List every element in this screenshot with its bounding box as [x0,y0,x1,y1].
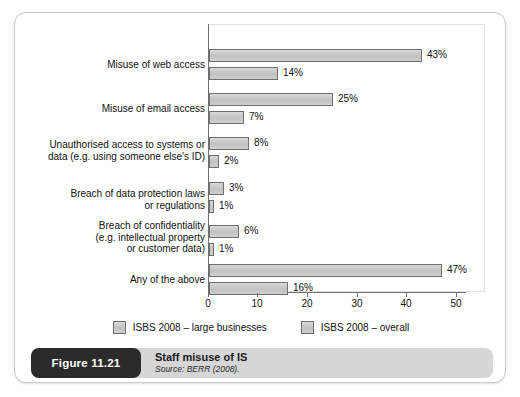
category-label-0: Misuse of web access [107,59,205,71]
legend-entry-large-businesses: ISBS 2008 – large businesses [113,321,267,334]
bar-value-overall-2: 2% [224,154,238,168]
bar-large-businesses-2 [209,137,249,150]
bar-overall-0 [209,67,278,80]
tick-mark-20 [307,293,308,297]
category-label-5: Any of the above [130,274,205,286]
bar-value-overall-5: 16% [293,281,313,295]
bar-overall-1 [209,111,244,124]
figure-number-pill: Figure 11.21 [31,348,141,378]
bar-large-businesses-1 [209,93,333,106]
bar-overall-5 [209,282,288,295]
category-label-4: Breach of confidentiality (e.g. intellec… [95,220,205,255]
bar-value-large-businesses-0: 43% [427,48,447,62]
bar-value-large-businesses-1: 25% [338,92,358,106]
bar-value-overall-4: 1% [219,242,233,256]
bar-value-overall-1: 7% [249,110,263,124]
tick-mark-0 [208,293,209,297]
bar-value-large-businesses-2: 8% [254,136,268,150]
bar-overall-3 [209,200,214,213]
figure-caption: Figure 11.21 Staff misuse of IS Source: … [31,348,493,378]
tick-mark-30 [357,293,358,297]
category-label-3: Breach of data protection laws or regula… [70,188,205,211]
category-label-1: Misuse of email access [102,103,205,115]
bar-chart: Misuse of web access 43% 14% Misuse of e… [15,13,507,313]
bar-large-businesses-3 [209,182,224,195]
bar-large-businesses-0 [209,49,422,62]
tick-label-30: 30 [344,298,370,309]
legend-entry-overall: ISBS 2008 – overall [301,321,409,334]
legend-swatch-large-businesses [113,321,126,334]
bar-large-businesses-5 [209,264,442,277]
figure-frame: Misuse of web access 43% 14% Misuse of e… [14,12,506,383]
bar-value-large-businesses-3: 3% [229,181,243,195]
chart-legend: ISBS 2008 – large businesses ISBS 2008 –… [15,315,507,339]
figure-number-label: Figure 11.21 [52,357,121,369]
legend-swatch-overall [301,321,314,334]
bar-overall-2 [209,155,219,168]
category-label-2: Unauthorised access to systems or data (… [48,139,205,162]
bar-overall-4 [209,243,214,256]
bar-large-businesses-4 [209,225,239,238]
bar-value-overall-0: 14% [283,66,303,80]
tick-mark-50 [456,293,457,297]
bar-value-large-businesses-5: 47% [447,263,467,277]
caption-title: Staff misuse of IS [155,351,485,364]
caption-source: Source: BERR (2008). [155,364,485,375]
caption-text-block: Staff misuse of IS Source: BERR (2008). [155,351,485,375]
tick-mark-10 [257,293,258,297]
tick-label-20: 20 [294,298,320,309]
bar-value-large-businesses-4: 6% [244,224,258,238]
tick-label-50: 50 [443,298,469,309]
tick-label-0: 0 [195,298,221,309]
tick-label-40: 40 [393,298,419,309]
tick-label-10: 10 [244,298,270,309]
legend-label-large-businesses: ISBS 2008 – large businesses [133,322,267,333]
legend-label-overall: ISBS 2008 – overall [321,322,409,333]
plot-panel [208,24,485,292]
bar-value-overall-3: 1% [219,199,233,213]
tick-mark-40 [406,293,407,297]
